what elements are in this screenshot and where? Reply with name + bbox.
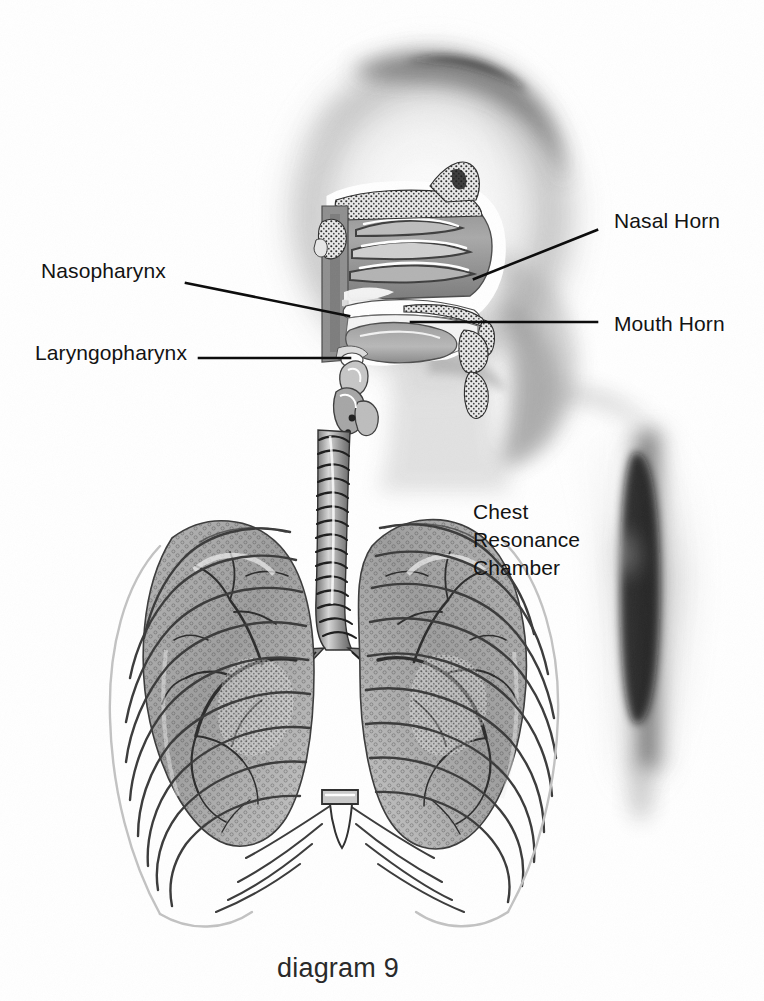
- label-laryngopharynx: Laryngopharynx: [35, 339, 187, 367]
- anatomy-illustration: [0, 0, 764, 1001]
- chest-resonance-line-3: Chamber: [473, 554, 623, 582]
- label-chest-resonance-chamber: Chest Resonance Chamber: [473, 498, 623, 582]
- figure-caption: diagram 9: [277, 952, 399, 984]
- label-mouth-horn: Mouth Horn: [614, 310, 725, 338]
- chest-resonance-line-2: Resonance: [473, 526, 623, 554]
- label-nasal-horn: Nasal Horn: [614, 207, 720, 235]
- diagram-page: Nasopharynx Laryngopharynx Nasal Horn Mo…: [0, 0, 764, 1001]
- chest-resonance-line-1: Chest: [473, 498, 623, 526]
- label-nasopharynx: Nasopharynx: [41, 257, 166, 285]
